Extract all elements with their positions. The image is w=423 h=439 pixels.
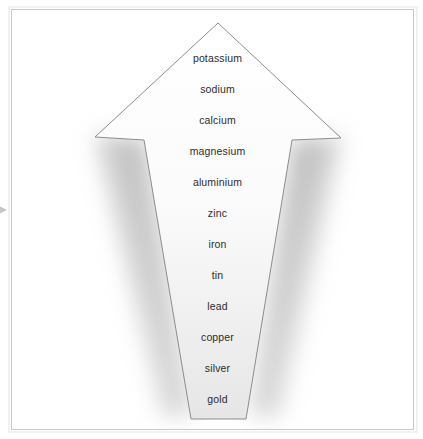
triangle-right-icon xyxy=(0,203,7,217)
figure-root: potassium sodium calcium magnesium alumi… xyxy=(0,0,423,439)
arrow-diagram xyxy=(12,10,413,429)
